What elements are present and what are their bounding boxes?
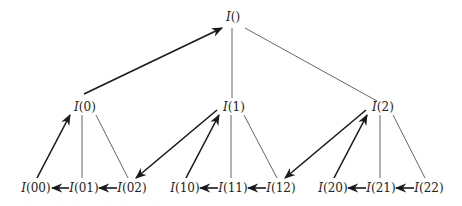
node-n11: I(11): [217, 181, 247, 195]
edge-n2-n22: [393, 115, 425, 178]
node-n20: I(20): [317, 181, 347, 195]
node-root: I(): [225, 10, 240, 24]
node-n10: I(10): [169, 181, 199, 195]
arrow-n10-n1: [186, 115, 219, 178]
edge-root-n2: [245, 28, 377, 101]
node-n2: I(2): [371, 100, 394, 114]
arrow-n2-n12: [285, 110, 366, 178]
edge-n0-n02: [96, 115, 128, 178]
arrow-n0-root: [84, 28, 222, 94]
node-n21: I(21): [365, 181, 395, 195]
arrow-n20-n2: [334, 115, 367, 178]
node-n02: I(02): [116, 181, 146, 195]
arrow-n1-n02: [136, 110, 217, 178]
arrow-n00-n0: [37, 115, 70, 178]
edge-n1-n12: [244, 115, 277, 178]
node-n1: I(1): [222, 100, 245, 114]
node-n0: I(0): [73, 100, 96, 114]
node-n22: I(22): [413, 181, 443, 195]
node-n00: I(00): [20, 181, 50, 195]
node-n01: I(01): [68, 181, 98, 195]
tree-traversal-diagram: I() I(0) I(1) I(2) I(00) I(01) I(02) I(1…: [0, 0, 462, 206]
node-n12: I(12): [265, 181, 295, 195]
